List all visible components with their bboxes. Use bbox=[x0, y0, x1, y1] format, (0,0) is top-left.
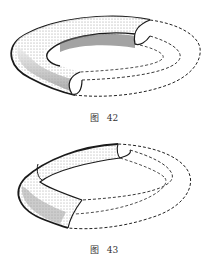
caption-prefix: 图 bbox=[90, 243, 99, 256]
torus-band-drawing bbox=[0, 130, 208, 238]
caption-number: 42 bbox=[107, 113, 118, 123]
caption-figure-42: 图42 bbox=[0, 111, 208, 124]
caption-prefix: 图 bbox=[90, 111, 99, 124]
caption-number: 43 bbox=[107, 245, 118, 255]
caption-figure-43: 图43 bbox=[0, 243, 208, 256]
figure-42 bbox=[0, 0, 208, 108]
torus-cut-drawing bbox=[0, 0, 208, 108]
figure-43 bbox=[0, 130, 208, 238]
